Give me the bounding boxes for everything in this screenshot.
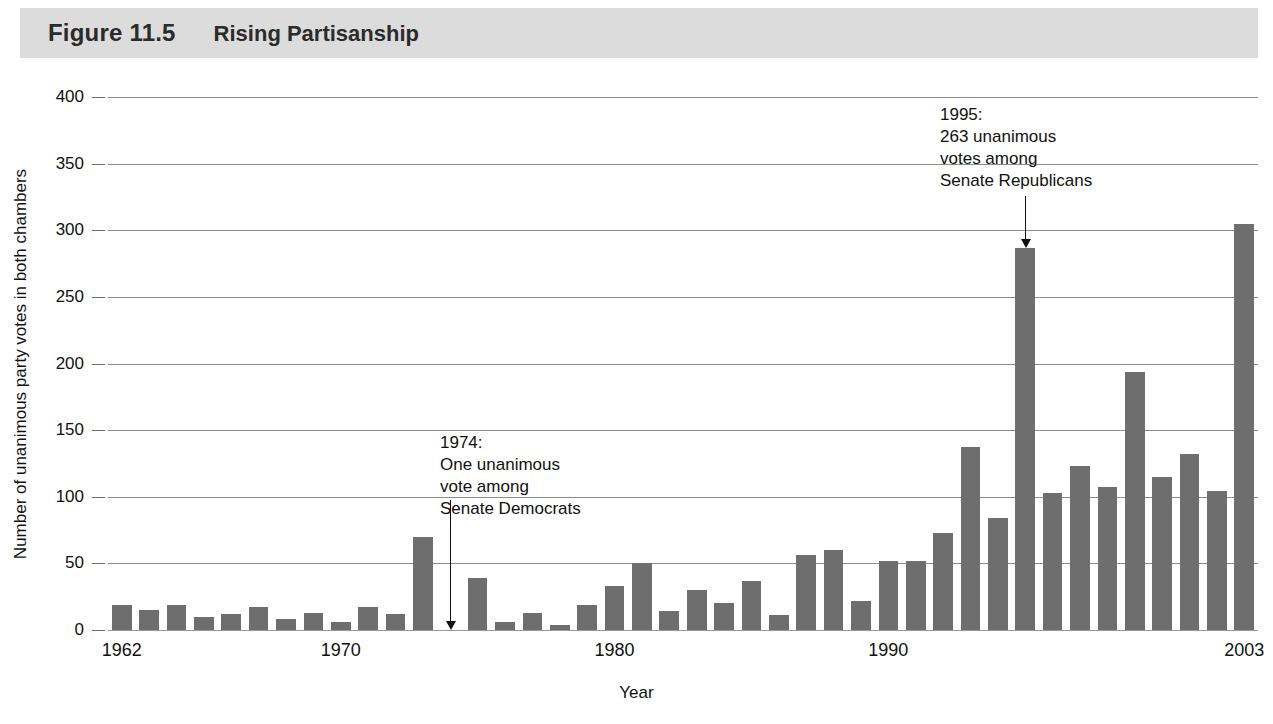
y-tick-label: 50	[38, 553, 84, 573]
annotation-1974-arrowhead	[446, 621, 456, 630]
annotation-1995-line: 1995:	[940, 104, 1092, 126]
bar	[851, 601, 871, 630]
bar	[796, 555, 816, 630]
y-tick-label: 200	[38, 354, 84, 374]
x-tick-label: 1962	[102, 640, 142, 661]
y-tick-mark	[92, 297, 105, 298]
annotation-1974-line: vote among	[440, 476, 581, 498]
y-tick-mark	[92, 497, 105, 498]
annotation-1995-line: 263 unanimous	[940, 126, 1092, 148]
y-tick-label: 150	[38, 420, 84, 440]
x-tick-label: 1990	[868, 640, 908, 661]
bar	[577, 605, 597, 630]
bar	[1180, 454, 1200, 630]
bar	[1043, 493, 1063, 630]
y-tick-mark	[92, 364, 105, 365]
bar	[1015, 248, 1035, 630]
bar	[167, 605, 187, 630]
annotation-1974-line: Senate Democrats	[440, 498, 581, 520]
y-tick-mark	[92, 630, 105, 631]
x-tick-label: 1980	[595, 640, 635, 661]
y-tick-label: 300	[38, 220, 84, 240]
x-axis-title: Year	[0, 683, 1273, 703]
bar	[1125, 372, 1145, 631]
y-axis-title-label: Number of unanimous party votes in both …	[11, 168, 31, 558]
bar	[687, 590, 707, 630]
bar	[468, 578, 488, 630]
bar	[879, 561, 899, 630]
annotation-1974-arrow-shaft	[450, 500, 451, 622]
annotation-1995: 1995:263 unanimousvotes amongSenate Repu…	[940, 104, 1092, 192]
bar	[1070, 466, 1090, 630]
y-tick-label: 400	[38, 87, 84, 107]
annotation-1974-line: One unanimous	[440, 454, 581, 476]
bar	[824, 550, 844, 630]
y-tick-mark	[92, 164, 105, 165]
bar	[276, 619, 296, 630]
bar	[659, 611, 679, 630]
bar	[139, 610, 159, 630]
bar	[961, 447, 981, 630]
bar	[194, 617, 214, 630]
y-tick-label: 100	[38, 487, 84, 507]
bar	[331, 622, 351, 630]
y-axis-title: Number of unanimous party votes in both …	[8, 97, 34, 630]
y-tick-mark	[92, 430, 105, 431]
bar	[413, 537, 433, 630]
bar-chart: Number of unanimous party votes in both …	[0, 0, 1273, 724]
annotation-1995-arrow-shaft	[1025, 196, 1026, 240]
bar	[550, 625, 570, 630]
bar	[1207, 491, 1227, 630]
y-tick-label: 0	[38, 620, 84, 640]
bar	[1152, 477, 1172, 630]
bar	[249, 607, 269, 630]
bar	[988, 518, 1008, 630]
bar	[358, 607, 378, 630]
y-tick-mark	[92, 230, 105, 231]
bar	[605, 586, 625, 630]
bar	[933, 533, 953, 630]
y-tick-label: 250	[38, 287, 84, 307]
x-tick-label: 2003	[1224, 640, 1264, 661]
bar	[769, 615, 789, 630]
bar	[221, 614, 241, 630]
bar	[304, 613, 324, 630]
y-tick-label: 350	[38, 154, 84, 174]
annotation-1995-arrowhead	[1021, 239, 1031, 248]
bar	[495, 622, 515, 630]
annotation-1995-line: votes among	[940, 148, 1092, 170]
bar	[112, 605, 132, 630]
gridline	[108, 630, 1258, 631]
bar	[714, 603, 734, 630]
bar	[523, 613, 543, 630]
bar	[906, 561, 926, 630]
y-tick-mark	[92, 563, 105, 564]
bar	[742, 581, 762, 630]
annotation-1974: 1974:One unanimousvote amongSenate Democ…	[440, 432, 581, 520]
y-tick-mark	[92, 97, 105, 98]
x-tick-label: 1970	[321, 640, 361, 661]
bar	[1098, 487, 1118, 630]
bar	[1234, 224, 1254, 630]
bar	[386, 614, 406, 630]
annotation-1974-line: 1974:	[440, 432, 581, 454]
bar	[632, 563, 652, 630]
annotation-1995-line: Senate Republicans	[940, 170, 1092, 192]
